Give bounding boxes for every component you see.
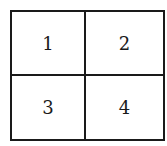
cell-label: 1 (42, 33, 53, 54)
two-by-two-grid: 1 2 3 4 (10, 10, 165, 141)
grid-cell-4: 4 (86, 76, 163, 139)
grid-cell-1: 1 (12, 12, 86, 76)
grid-cell-3: 3 (12, 76, 86, 139)
grid-cell-2: 2 (86, 12, 163, 76)
cell-label: 3 (42, 97, 53, 118)
cell-label: 2 (119, 33, 130, 54)
cell-label: 4 (119, 97, 130, 118)
